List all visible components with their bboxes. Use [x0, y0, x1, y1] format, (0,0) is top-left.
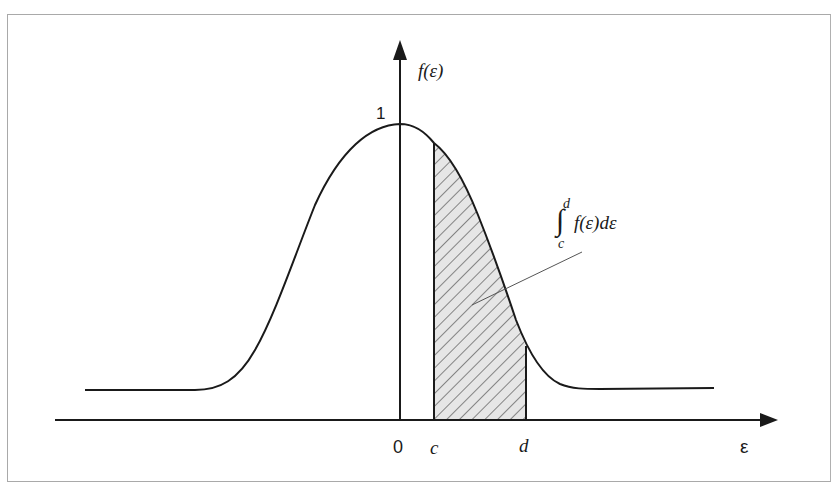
integral-lower-limit: c: [558, 236, 564, 252]
shaded-integral-area: [434, 143, 526, 420]
y-axis-arrow-icon: [393, 40, 407, 60]
tick-label-c: c: [430, 437, 438, 459]
x-axis-label: ε: [740, 436, 748, 458]
x-axis-arrow-icon: [760, 413, 778, 427]
tick-label-zero: 0: [393, 437, 403, 458]
tick-label-d: d: [519, 435, 529, 457]
peak-value-label: 1: [376, 104, 385, 124]
y-axis-label: f(ε): [418, 60, 443, 82]
integrand-text: f(ε)dε: [574, 212, 616, 234]
integral-sign: ∫: [556, 203, 564, 237]
